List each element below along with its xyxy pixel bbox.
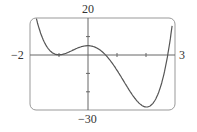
x-min-label: −2: [11, 48, 24, 63]
chart: 20 −30 −2 3: [0, 0, 197, 132]
y-min-label: −30: [78, 112, 97, 127]
x-max-label: 3: [179, 48, 185, 63]
y-max-label: 20: [82, 2, 94, 17]
plot-area: [0, 0, 197, 132]
